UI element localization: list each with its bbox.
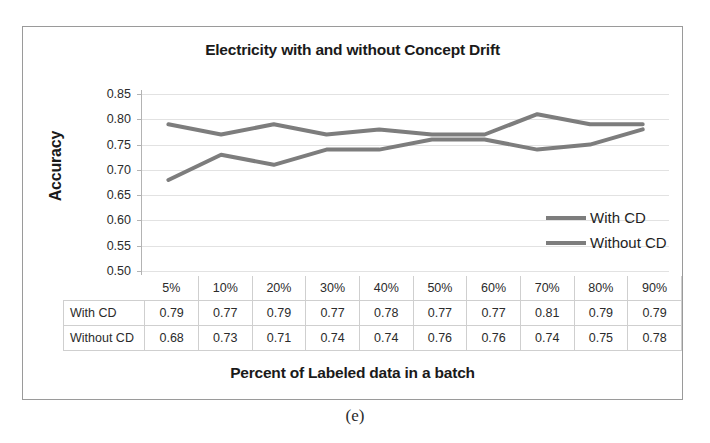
table-cell: 0.74	[520, 326, 574, 351]
y-axis-tick-label: 0.75	[85, 139, 131, 152]
y-axis-tick	[137, 119, 142, 120]
legend-label-without-cd: Without CD	[590, 234, 667, 251]
gridline	[142, 271, 669, 272]
table-cell: 0.76	[467, 326, 521, 351]
table-row-header: With CD	[64, 301, 145, 326]
table-cell: 0.77	[306, 301, 360, 326]
table-column-header: 60%	[467, 276, 521, 301]
y-axis-tick-label: 0.80	[85, 113, 131, 126]
table-column-header: 30%	[306, 276, 360, 301]
y-axis-tick	[137, 271, 142, 272]
series-line-without-cd	[168, 129, 642, 180]
table-cell: 0.79	[574, 301, 628, 326]
table-cell: 0.77	[413, 301, 467, 326]
table-column-header: 5%	[145, 276, 199, 301]
table-column-header: 50%	[413, 276, 467, 301]
table-cell: 0.79	[252, 301, 306, 326]
table-cell: 0.76	[413, 326, 467, 351]
y-axis-tick-label: 0.70	[85, 164, 131, 177]
table-column-header: 90%	[628, 276, 682, 301]
table-cell: 0.79	[145, 301, 199, 326]
y-axis-title: Accuracy	[47, 106, 65, 226]
y-axis-tick-label: 0.55	[85, 240, 131, 253]
table-corner-cell	[64, 276, 145, 301]
chart-title: Electricity with and without Concept Dri…	[23, 41, 682, 59]
chart-data-table: 5%10%20%30%40%50%60%70%80%90%With CD0.79…	[63, 276, 682, 351]
table-cell: 0.68	[145, 326, 199, 351]
table-column-header: 40%	[359, 276, 413, 301]
table-cell: 0.74	[306, 326, 360, 351]
table-row: Without CD0.680.730.710.740.740.760.760.…	[64, 326, 682, 351]
y-axis-tick	[137, 145, 142, 146]
chart-legend: With CD Without CD	[546, 205, 667, 255]
legend-swatch-without-cd	[546, 241, 586, 245]
table-cell: 0.77	[198, 301, 252, 326]
series-line-with-cd	[168, 114, 642, 134]
y-axis-tick-label: 0.65	[85, 189, 131, 202]
table-row-header: Without CD	[64, 326, 145, 351]
table-cell: 0.79	[628, 301, 682, 326]
table-cell: 0.78	[359, 301, 413, 326]
table-cell: 0.77	[467, 301, 521, 326]
table-column-header: 20%	[252, 276, 306, 301]
figure-caption: (e)	[0, 406, 710, 426]
table-cell: 0.81	[520, 301, 574, 326]
x-axis-title: Percent of Labeled data in a batch	[23, 364, 682, 382]
table-column-header: 10%	[198, 276, 252, 301]
legend-item-with-cd[interactable]: With CD	[546, 205, 667, 230]
table-cell: 0.78	[628, 326, 682, 351]
y-axis-tick-label: 0.60	[85, 214, 131, 227]
y-axis-tick	[137, 246, 142, 247]
y-axis-tick	[137, 94, 142, 95]
table-cell: 0.73	[198, 326, 252, 351]
table-cell: 0.71	[252, 326, 306, 351]
y-axis-tick-label: 0.85	[85, 88, 131, 101]
legend-item-without-cd[interactable]: Without CD	[546, 230, 667, 255]
table-header-row: 5%10%20%30%40%50%60%70%80%90%	[64, 276, 682, 301]
table-cell: 0.75	[574, 326, 628, 351]
table-cell: 0.74	[359, 326, 413, 351]
table-row: With CD0.790.770.790.770.780.770.770.810…	[64, 301, 682, 326]
legend-label-with-cd: With CD	[590, 209, 646, 226]
y-axis-tick	[137, 170, 142, 171]
table-column-header: 70%	[520, 276, 574, 301]
y-axis-tick	[137, 220, 142, 221]
y-axis-tick	[137, 195, 142, 196]
table-column-header: 80%	[574, 276, 628, 301]
legend-swatch-with-cd	[546, 216, 586, 220]
chart-figure-frame: Electricity with and without Concept Dri…	[22, 26, 683, 400]
